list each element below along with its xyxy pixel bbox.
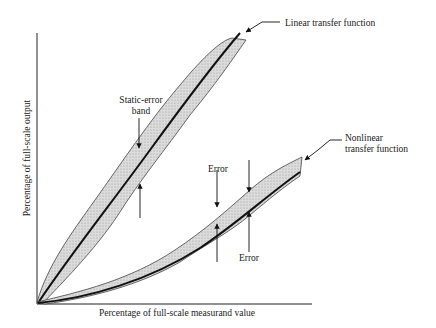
nonlinear-transfer-function-label-line2: transfer function bbox=[345, 144, 408, 154]
leader-lines bbox=[246, 22, 342, 160]
static-error-band-label-line2: band bbox=[132, 106, 151, 116]
static-error-band-label-line1: Static-error bbox=[119, 95, 163, 105]
x-axis-label: Percentage of full-scale measurand value bbox=[99, 308, 255, 318]
nonlinear-transfer-function-label-line1: Nonlinear bbox=[345, 133, 384, 143]
transfer-function-diagram: Linear transfer function Static-error ba… bbox=[0, 0, 436, 328]
linear-transfer-function-label: Linear transfer function bbox=[285, 18, 375, 28]
y-axis-label: Percentage of full-scale output bbox=[22, 99, 32, 216]
error-label-upper: Error bbox=[208, 164, 229, 174]
error-label-lower: Error bbox=[239, 253, 260, 263]
